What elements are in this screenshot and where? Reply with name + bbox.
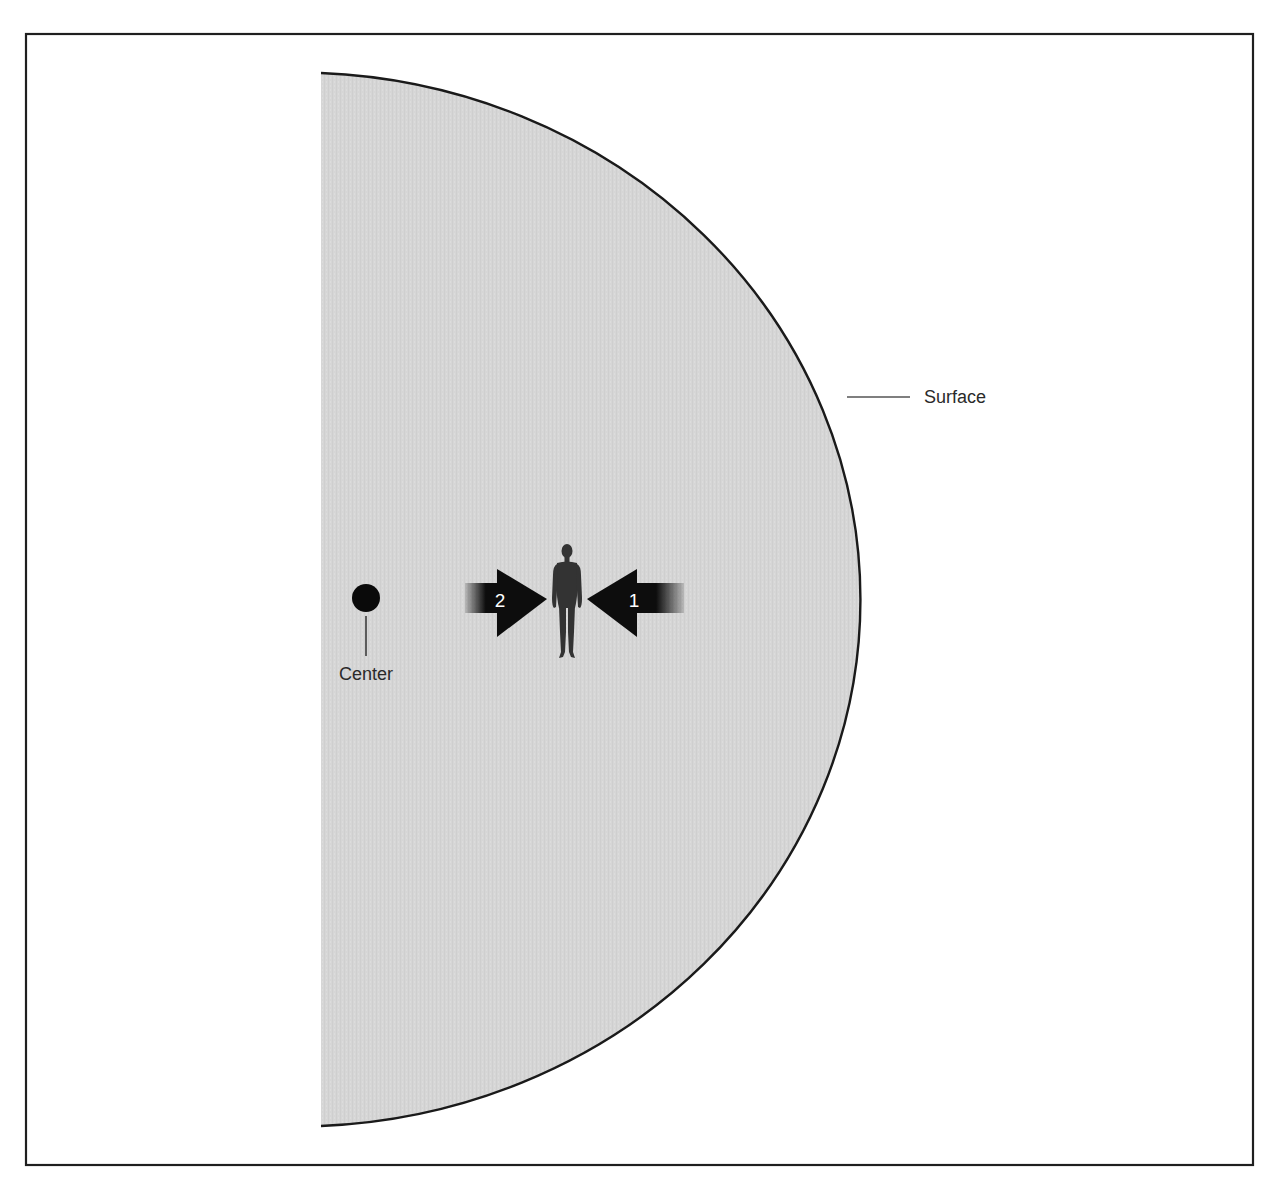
center-dot-icon — [352, 584, 380, 612]
surface-label: Surface — [924, 387, 986, 407]
arrow-2-number: 2 — [495, 590, 506, 611]
center-label: Center — [339, 664, 393, 684]
diagram-canvas: Center Surface 2 1 — [0, 0, 1270, 1195]
arrow-1-number: 1 — [629, 590, 640, 611]
